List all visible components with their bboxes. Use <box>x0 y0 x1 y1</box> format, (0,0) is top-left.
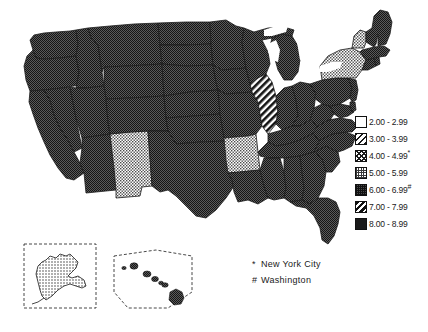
legend-swatch-diag-dark <box>355 201 367 213</box>
legend-item[interactable]: 5.00 - 5.99 <box>355 164 428 181</box>
legend-marker-asterisk: * <box>407 149 410 156</box>
footnote-mark-asterisk: * <box>252 258 261 271</box>
state-texas <box>148 131 236 218</box>
state-alaska <box>36 254 86 300</box>
footnote-row: * New York City <box>252 258 362 274</box>
legend-swatch-diag-light <box>355 133 367 145</box>
legend-swatch-check <box>355 167 367 179</box>
state-florida <box>290 198 340 244</box>
hawaii-islands <box>122 263 184 305</box>
legend-swatch-blank <box>355 116 367 128</box>
hawaii-inset <box>114 250 192 308</box>
state-massachusetts <box>360 46 390 60</box>
state-north-dakota <box>158 22 211 45</box>
legend-swatch-solid <box>355 218 367 230</box>
legend-label: 5.00 - 5.99 <box>369 168 407 178</box>
state-wyoming <box>104 64 164 99</box>
map-footnotes: * New York City # Washington <box>252 258 362 290</box>
legend-item[interactable]: 2.00 - 2.99 <box>355 113 428 130</box>
footnote-mark-hash: # <box>252 274 261 287</box>
legend-item[interactable]: 4.00 - 4.99* <box>355 147 428 164</box>
legend-item[interactable]: 7.00 - 7.99 <box>355 198 428 215</box>
legend-marker-hash: # <box>407 183 411 190</box>
legend-item[interactable]: 8.00 - 8.99 <box>355 215 428 232</box>
state-south-dakota <box>160 44 213 66</box>
state-new-mexico <box>110 131 152 198</box>
footnote-text: Washington <box>261 274 311 287</box>
alaska-aleutians <box>32 298 44 304</box>
state-vermont <box>352 30 366 48</box>
footnote-row: # Washington <box>252 274 362 290</box>
legend-item[interactable]: 6.00 - 6.99# <box>355 181 428 198</box>
legend-label: 4.00 - 4.99* <box>369 151 410 161</box>
legend-label: 3.00 - 3.99 <box>369 134 407 144</box>
state-arizona <box>80 134 116 193</box>
legend-item[interactable]: 3.00 - 3.99 <box>355 130 428 147</box>
map-legend: 2.00 - 2.99 3.00 - 3.99 4.00 - 4.99* 5.0… <box>355 113 428 232</box>
state-washington <box>30 30 78 59</box>
footnote-text: New York City <box>261 258 321 271</box>
great-lakes <box>264 26 342 76</box>
state-colorado <box>106 96 168 134</box>
conus-states <box>24 10 392 244</box>
legend-label: 7.00 - 7.99 <box>369 202 407 212</box>
state-oklahoma <box>166 114 226 144</box>
legend-label: 2.00 - 2.99 <box>369 117 407 127</box>
state-pennsylvania <box>310 78 352 106</box>
legend-label: 8.00 - 8.99 <box>369 219 407 229</box>
choropleth-figure: 2.00 - 2.99 3.00 - 3.99 4.00 - 4.99* 5.0… <box>0 0 428 332</box>
state-arkansas <box>224 134 260 173</box>
legend-label: 6.00 - 6.99# <box>369 185 411 195</box>
legend-swatch-dark-stipple <box>355 184 367 196</box>
legend-swatch-cross <box>355 150 367 162</box>
alaska-inset <box>24 244 96 308</box>
state-minnesota <box>210 20 246 70</box>
